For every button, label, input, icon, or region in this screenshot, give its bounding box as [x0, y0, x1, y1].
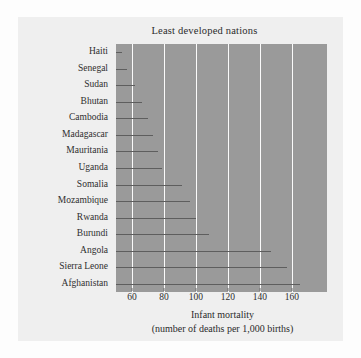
gridline-120 — [228, 44, 230, 292]
y-axis-tick-label: Burundi — [77, 229, 108, 239]
y-axis-tick-label: Rwanda — [77, 213, 108, 223]
y-axis-tick-label: Senegal — [78, 64, 108, 74]
data-row-line — [116, 218, 196, 219]
y-axis-tick-label: Uganda — [78, 163, 108, 173]
x-axis-tick-label: 100 — [189, 292, 203, 302]
data-row-line — [116, 168, 162, 169]
data-row-line — [116, 234, 209, 235]
gridline-100 — [196, 44, 198, 292]
x-axis-tick-mark — [227, 288, 228, 291]
x-axis-subtitle: (number of deaths per 1,000 births) — [36, 323, 361, 334]
y-axis-tick-label: Mozambique — [58, 196, 108, 206]
x-axis-tick-mark — [259, 288, 260, 291]
y-axis-tick-label: Somalia — [77, 180, 108, 190]
y-axis-tick-label: Haiti — [89, 48, 108, 58]
data-row-line — [116, 284, 300, 285]
gridline-140 — [260, 44, 262, 292]
y-axis-tick-label: Mauritania — [66, 147, 108, 157]
x-axis-tick-label: 60 — [127, 292, 137, 302]
y-axis-tick-label: Bhutan — [81, 97, 108, 107]
plot-area — [116, 44, 327, 292]
data-row-line — [116, 201, 190, 202]
x-axis-tick-label: 80 — [159, 292, 169, 302]
x-axis-tick-label: 140 — [253, 292, 267, 302]
gridline-160 — [292, 44, 294, 292]
x-axis-tick-mark — [163, 288, 164, 291]
gridline-80 — [164, 44, 166, 292]
y-axis-label-group: HaitiSenegalSudanBhutanCambodiaMadagasca… — [18, 44, 112, 292]
x-axis-tick-mark — [291, 288, 292, 291]
data-row-line — [116, 251, 271, 252]
chart-screenshot: Least developed nations HaitiSenegalSuda… — [0, 0, 361, 358]
x-axis-title: Infant mortality — [36, 309, 361, 320]
y-axis-tick-label: Angola — [80, 246, 108, 256]
data-row-line — [116, 85, 135, 86]
y-axis-tick-label: Afghanistan — [62, 279, 108, 289]
data-row-line — [116, 267, 287, 268]
x-axis-tick-group: 6080100120140160 — [116, 292, 327, 308]
x-axis-tick-label: 120 — [221, 292, 235, 302]
data-row-line — [116, 118, 148, 119]
x-axis-tick-label: 160 — [285, 292, 299, 302]
y-axis-tick-label: Sudan — [84, 81, 108, 91]
data-row-line — [116, 151, 158, 152]
y-axis-tick-label: Madagascar — [62, 130, 108, 140]
data-row-line — [116, 185, 182, 186]
y-axis-tick-label: Cambodia — [69, 114, 108, 124]
data-row-line — [116, 102, 142, 103]
figure-card: Least developed nations HaitiSenegalSuda… — [18, 17, 343, 341]
data-row-line — [116, 69, 127, 70]
y-axis-tick-label: Sierra Leone — [59, 262, 108, 272]
data-row-line — [116, 135, 153, 136]
chart-title: Least developed nations — [18, 25, 343, 36]
data-row-line — [116, 52, 122, 53]
x-axis-tick-mark — [131, 288, 132, 291]
x-axis-tick-mark — [195, 288, 196, 291]
